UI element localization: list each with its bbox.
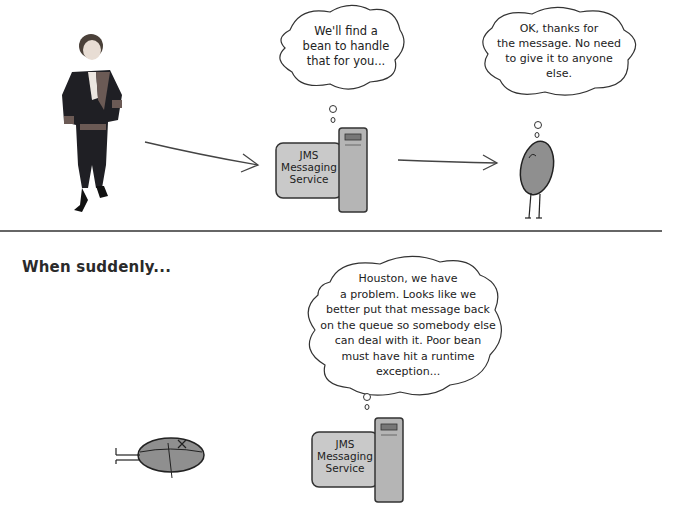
jms-line: JMS xyxy=(314,438,376,450)
bubble-line: can deal with it. Poor bean xyxy=(318,333,498,349)
bean-fallen xyxy=(116,438,204,478)
section-heading: When suddenly... xyxy=(22,258,171,276)
bean-bubble-text: OK, thanks for the message. No need to g… xyxy=(496,21,622,81)
jms-line: Service xyxy=(314,462,376,474)
bubble-line: We'll find a xyxy=(296,24,396,39)
bubble-line: exception... xyxy=(318,364,498,380)
bubble-line: must have hit a runtime xyxy=(318,349,498,365)
bubble-line: else. xyxy=(496,66,622,81)
bubble-line: better put that message back xyxy=(318,302,498,318)
bubble-line: on the queue so somebody else xyxy=(318,318,498,334)
jms-top-bubble-text: We'll find a bean to handle that for you… xyxy=(296,24,396,69)
bean-standing xyxy=(516,138,559,218)
bubble-line: a problem. Looks like we xyxy=(318,287,498,303)
arrow-to-jms xyxy=(145,142,258,165)
bubble-line: bean to handle xyxy=(296,39,396,54)
jms-line: Messaging xyxy=(278,161,340,173)
jms-line: Messaging xyxy=(314,450,376,462)
bubble-line: OK, thanks for xyxy=(496,21,622,36)
jms-line: JMS xyxy=(278,149,340,161)
jms-line: Service xyxy=(278,173,340,185)
jms-bottom-label: JMS Messaging Service xyxy=(314,438,376,474)
arrow-to-bean xyxy=(398,160,497,163)
jms-top-label: JMS Messaging Service xyxy=(278,149,340,185)
bubble-line: the message. No need xyxy=(496,36,622,51)
person-figure xyxy=(62,34,122,212)
bubble-line: to give it to anyone xyxy=(496,51,622,66)
bubble-line: Houston, we have xyxy=(318,271,498,287)
bubble-line: that for you... xyxy=(296,54,396,69)
jms-bottom-bubble-text: Houston, we have a problem. Looks like w… xyxy=(318,271,498,380)
